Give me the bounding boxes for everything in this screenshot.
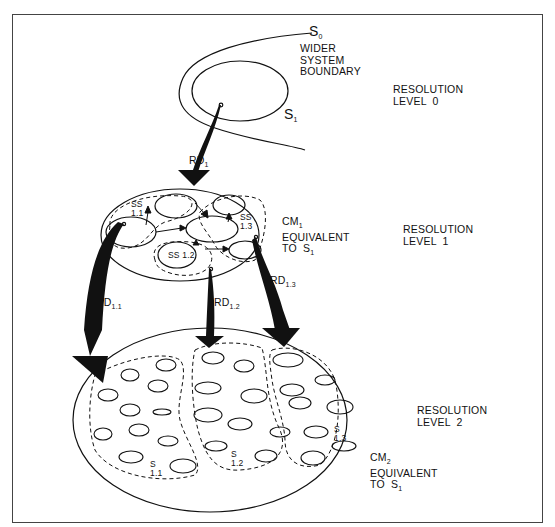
wider-system-boundary: [179, 33, 312, 150]
rd13-label: RD1.3: [270, 275, 296, 291]
s12-label: S 1.2: [231, 450, 243, 468]
rd13-arrowhead: [262, 328, 300, 347]
rd11-label: RD1.1: [96, 297, 122, 313]
s0-label: S0: [309, 26, 323, 43]
rd12-label: RD1.2: [214, 297, 240, 313]
ss13-label: SS 1.3: [240, 213, 252, 231]
resolution-level-1-label: RESOLUTION LEVEL 1: [403, 224, 473, 247]
resolution-level-2-label: RESOLUTION LEVEL 2: [417, 405, 487, 428]
s1-label: S1: [284, 109, 298, 126]
rd1-label: RD1: [189, 155, 209, 171]
diagram-canvas: [0, 0, 555, 527]
system-s1-ellipse: [192, 61, 288, 121]
resolution-level-0-label: RESOLUTION LEVEL 0: [393, 84, 463, 107]
ss11-label: SS 1.1: [131, 200, 143, 218]
rd11-arrowhead: [72, 356, 108, 383]
cm1-label: CM1 EQUIVALENT TO S1: [282, 216, 350, 259]
cm2-ellipse: [73, 328, 347, 512]
cm2-label: CM2 EQUIVALENT TO S1: [370, 452, 438, 495]
rd12-arrowhead: [195, 336, 224, 348]
s13-label: S 1.3: [334, 425, 346, 443]
wider-system-boundary-label: WIDER SYSTEM BOUNDARY: [300, 43, 361, 78]
s11-label: S 1.1: [150, 460, 162, 478]
rd1-arrowhead: [178, 170, 210, 186]
ss12-label: SS 1.2: [168, 251, 195, 260]
